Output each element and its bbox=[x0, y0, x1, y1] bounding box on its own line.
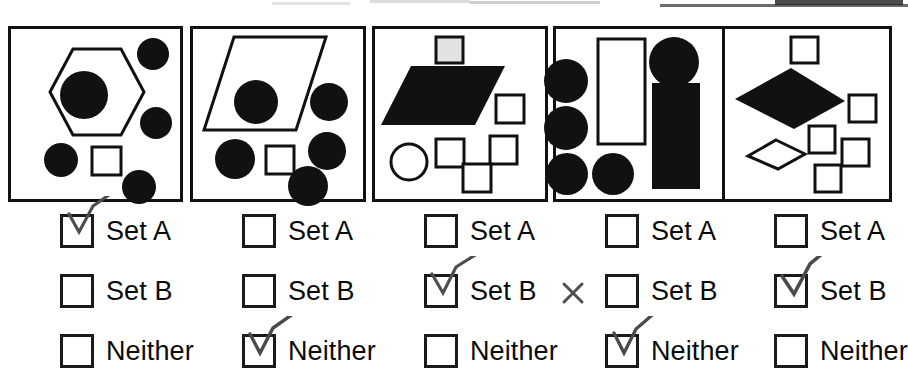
option-set-b-panel-2[interactable]: Set B bbox=[190, 272, 370, 324]
figure-panel-5 bbox=[722, 26, 892, 202]
rectangle-filled bbox=[652, 83, 700, 189]
top-fragment-artifact bbox=[370, 0, 470, 3]
checkbox-neither-panel-2[interactable] bbox=[242, 334, 276, 368]
checkbox-neither-panel-4[interactable] bbox=[605, 334, 639, 368]
circle-filled bbox=[140, 107, 172, 139]
checkbox-set-b-panel-2[interactable] bbox=[242, 274, 276, 308]
option-set-a-panel-4[interactable]: Set A bbox=[553, 212, 733, 264]
option-label: Neither bbox=[820, 332, 908, 370]
square-outline bbox=[849, 95, 876, 122]
panel-3-shapes bbox=[375, 29, 551, 205]
circle-filled bbox=[544, 59, 588, 103]
panel-5-shapes bbox=[725, 29, 895, 205]
circle-filled bbox=[592, 153, 634, 195]
option-set-a-panel-1[interactable]: Set A bbox=[8, 212, 188, 264]
option-label: Neither bbox=[288, 332, 376, 370]
checkbox-neither-panel-1[interactable] bbox=[60, 334, 94, 368]
circle-filled bbox=[310, 83, 348, 121]
figure-panel-1 bbox=[8, 26, 183, 202]
answer-group-panel-5: Set A Set B Neither bbox=[722, 204, 902, 388]
option-set-b-panel-1[interactable]: Set B bbox=[8, 272, 188, 324]
figure-panels-row bbox=[0, 26, 903, 204]
option-set-a-panel-3[interactable]: Set A bbox=[372, 212, 552, 264]
figure-panel-2 bbox=[190, 26, 366, 202]
panel-4-shapes bbox=[556, 29, 733, 205]
checkbox-set-a-panel-5[interactable] bbox=[774, 214, 808, 248]
option-label: Set A bbox=[470, 212, 535, 250]
square-outline bbox=[436, 139, 464, 167]
option-neither-panel-4[interactable]: Neither bbox=[553, 332, 733, 384]
option-label: Set B bbox=[470, 272, 537, 310]
answer-group-panel-3: Set A Set B Neither bbox=[372, 204, 552, 388]
option-label: Neither bbox=[106, 332, 194, 370]
answer-group-panel-1: Set A Set B Neither bbox=[8, 204, 188, 388]
answer-rows: Set A Set B Neither Set A Set B bbox=[0, 204, 903, 388]
option-label: Set A bbox=[820, 212, 885, 250]
square-outline bbox=[490, 136, 517, 164]
square-outline bbox=[842, 139, 869, 166]
circle-filled bbox=[60, 71, 108, 119]
option-label: Neither bbox=[470, 332, 558, 370]
checkbox-set-b-panel-5[interactable] bbox=[774, 274, 808, 308]
option-label: Set A bbox=[288, 212, 353, 250]
top-fragment-artifact bbox=[272, 2, 350, 5]
square-outline bbox=[92, 147, 121, 175]
circle-filled bbox=[308, 132, 346, 170]
circle-filled bbox=[546, 153, 588, 195]
top-fragment-artifact bbox=[470, 1, 600, 4]
circle-filled bbox=[544, 106, 588, 150]
circle-filled bbox=[137, 38, 169, 70]
square-outline bbox=[496, 95, 524, 123]
option-set-b-panel-5[interactable]: Set B bbox=[722, 272, 902, 324]
option-label: Set B bbox=[288, 272, 355, 310]
checkbox-set-a-panel-3[interactable] bbox=[424, 214, 458, 248]
circle-filled bbox=[234, 80, 278, 124]
checkbox-set-b-panel-3[interactable] bbox=[424, 274, 458, 308]
option-set-a-panel-2[interactable]: Set A bbox=[190, 212, 370, 264]
checkbox-neither-panel-3[interactable] bbox=[424, 334, 458, 368]
answer-group-panel-4: Set A Set B Neither bbox=[553, 204, 733, 388]
figure-panel-4 bbox=[553, 26, 730, 202]
checkbox-set-a-panel-2[interactable] bbox=[242, 214, 276, 248]
option-neither-panel-5[interactable]: Neither bbox=[722, 332, 902, 384]
option-label: Set A bbox=[651, 212, 716, 250]
option-set-b-panel-3[interactable]: Set B bbox=[372, 272, 552, 324]
checkbox-set-b-panel-1[interactable] bbox=[60, 274, 94, 308]
square-outline bbox=[436, 37, 463, 63]
circle-outline bbox=[391, 144, 427, 180]
rhombus-outline bbox=[748, 140, 805, 169]
square-outline bbox=[791, 37, 818, 63]
option-neither-panel-3[interactable]: Neither bbox=[372, 332, 552, 384]
option-label: Set A bbox=[106, 212, 171, 250]
square-outline bbox=[266, 146, 294, 174]
option-neither-panel-1[interactable]: Neither bbox=[8, 332, 188, 384]
checkbox-neither-panel-5[interactable] bbox=[774, 334, 808, 368]
panel-2-shapes bbox=[193, 29, 369, 205]
square-outline bbox=[809, 126, 835, 153]
circle-filled bbox=[44, 143, 78, 177]
checkbox-set-b-panel-4[interactable] bbox=[605, 274, 639, 308]
square-outline bbox=[815, 165, 841, 192]
rectangle-outline bbox=[598, 39, 645, 144]
parallelogram-filled bbox=[381, 66, 505, 125]
option-neither-panel-2[interactable]: Neither bbox=[190, 332, 370, 384]
square-outline bbox=[463, 164, 491, 192]
checkbox-set-a-panel-1[interactable] bbox=[60, 214, 94, 248]
option-label: Set B bbox=[820, 272, 887, 310]
option-set-a-panel-5[interactable]: Set A bbox=[722, 212, 902, 264]
circle-filled bbox=[215, 139, 255, 179]
circle-filled bbox=[649, 37, 699, 87]
figure-panel-3 bbox=[372, 26, 548, 202]
panel-1-shapes bbox=[11, 29, 186, 205]
rhombus-filled bbox=[735, 68, 845, 129]
option-label: Set B bbox=[651, 272, 718, 310]
option-set-b-panel-4[interactable]: Set B bbox=[553, 272, 733, 324]
option-label: Set B bbox=[106, 272, 173, 310]
checkbox-set-a-panel-4[interactable] bbox=[605, 214, 639, 248]
circle-filled bbox=[122, 170, 156, 204]
top-fragment-artifact bbox=[775, 0, 903, 5]
answer-group-panel-2: Set A Set B Neither bbox=[190, 204, 370, 388]
